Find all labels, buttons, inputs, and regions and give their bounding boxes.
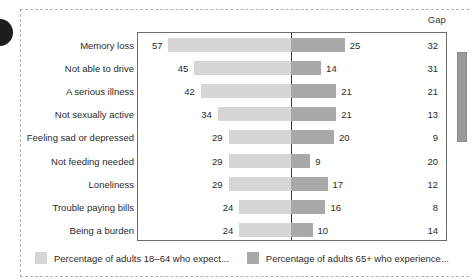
- bar-segment-65-plus[interactable]: [291, 107, 336, 121]
- row-bars: 572532: [138, 38, 446, 52]
- vertical-scrollbar-track[interactable]: [456, 22, 472, 257]
- bar-segment-18-64[interactable]: [229, 154, 291, 168]
- bar-segment-18-64[interactable]: [201, 84, 291, 98]
- bar-segment-65-plus[interactable]: [291, 84, 336, 98]
- row-category-label: Feeling sad or depressed: [27, 132, 134, 143]
- bar-segment-18-64[interactable]: [239, 200, 291, 214]
- bar-value-18-64: 29: [212, 178, 223, 189]
- row-bars: 342113: [138, 107, 446, 121]
- legend-label-65-plus: Percentage of adults 65+ who experience.…: [266, 253, 449, 264]
- bar-value-18-64: 34: [201, 109, 212, 120]
- bar-value-18-64: 45: [178, 62, 189, 73]
- bar-segment-18-64[interactable]: [218, 107, 291, 121]
- row-bars: 422121: [138, 84, 446, 98]
- row-category-label: Loneliness: [89, 178, 134, 189]
- gap-value: 21: [427, 85, 438, 96]
- bar-value-65-plus: 10: [318, 225, 329, 236]
- bar-value-18-64: 29: [212, 155, 223, 166]
- gap-value: 20: [427, 155, 438, 166]
- bar-segment-65-plus[interactable]: [291, 61, 321, 75]
- row-category-label: Being a burden: [70, 225, 134, 236]
- bar-segment-65-plus[interactable]: [291, 223, 313, 237]
- bar-value-18-64: 42: [184, 85, 195, 96]
- bar-value-65-plus: 21: [341, 85, 352, 96]
- chart-row: A serious illness422121: [138, 79, 446, 102]
- row-category-label: Trouble paying bills: [53, 201, 135, 212]
- gap-value: 32: [427, 39, 438, 50]
- row-category-label: Not sexually active: [55, 109, 134, 120]
- bar-segment-65-plus[interactable]: [291, 177, 328, 191]
- bar-value-18-64: 24: [223, 225, 234, 236]
- vertical-scrollbar-thumb[interactable]: [457, 52, 467, 142]
- bar-segment-18-64[interactable]: [194, 61, 291, 75]
- bar-value-65-plus: 14: [326, 62, 337, 73]
- bar-value-65-plus: 17: [333, 178, 344, 189]
- bar-segment-65-plus[interactable]: [291, 154, 310, 168]
- gap-value: 14: [427, 225, 438, 236]
- chart-row: Not able to drive451431: [138, 56, 446, 79]
- bar-segment-18-64[interactable]: [239, 223, 291, 237]
- row-bars: 451431: [138, 61, 446, 75]
- bar-segment-18-64[interactable]: [229, 177, 291, 191]
- chart-row: Not feeding needed29920: [138, 149, 446, 172]
- chart-row: Loneliness291712: [138, 172, 446, 195]
- bar-segment-65-plus[interactable]: [291, 38, 345, 52]
- bar-segment-18-64[interactable]: [168, 38, 291, 52]
- gap-value: 8: [433, 201, 438, 212]
- chart-legend: Percentage of adults 18–64 who expect...…: [35, 252, 467, 264]
- row-bars: 291712: [138, 177, 446, 191]
- legend-item-65-plus[interactable]: Percentage of adults 65+ who experience.…: [247, 252, 449, 264]
- gap-value: 13: [427, 109, 438, 120]
- row-bars: 241014: [138, 223, 446, 237]
- legend-label-18-64: Percentage of adults 18–64 who expect...: [54, 253, 229, 264]
- bar-segment-65-plus[interactable]: [291, 130, 334, 144]
- bar-value-65-plus: 25: [350, 39, 361, 50]
- row-category-label: Not feeding needed: [51, 155, 134, 166]
- bar-value-65-plus: 20: [339, 132, 350, 143]
- bar-value-18-64: 57: [152, 39, 163, 50]
- legend-swatch-icon-65-plus: [247, 252, 259, 264]
- row-category-label: Memory loss: [80, 39, 134, 50]
- chart-row: Memory loss572532: [138, 33, 446, 56]
- bar-segment-65-plus[interactable]: [291, 200, 325, 214]
- row-category-label: Not able to drive: [65, 62, 134, 73]
- gap-value: 9: [433, 132, 438, 143]
- legend-item-18-64[interactable]: Percentage of adults 18–64 who expect...: [35, 252, 229, 264]
- bar-value-18-64: 29: [212, 132, 223, 143]
- row-bars: 29209: [138, 130, 446, 144]
- row-category-label: A serious illness: [66, 85, 134, 96]
- row-bars: 24168: [138, 200, 446, 214]
- bar-value-18-64: 24: [223, 201, 234, 212]
- chart-plot-area: Memory loss572532Not able to drive451431…: [137, 32, 447, 241]
- chart-rows: Memory loss572532Not able to drive451431…: [138, 33, 446, 240]
- legend-swatch-icon-18-64: [35, 252, 47, 264]
- gap-value: 31: [427, 62, 438, 73]
- bar-value-65-plus: 9: [315, 155, 320, 166]
- gap-column-header: Gap: [428, 14, 446, 25]
- chart-row: Being a burden241014: [138, 219, 446, 242]
- chart-row: Feeling sad or depressed29209: [138, 126, 446, 149]
- bar-value-65-plus: 21: [341, 109, 352, 120]
- diverging-bar-chart: Gap Memory loss572532Not able to drive45…: [0, 0, 472, 279]
- chart-row: Trouble paying bills24168: [138, 195, 446, 218]
- gap-value: 12: [427, 178, 438, 189]
- bar-value-65-plus: 16: [330, 201, 341, 212]
- bar-segment-18-64[interactable]: [229, 130, 291, 144]
- row-bars: 29920: [138, 154, 446, 168]
- chart-row: Not sexually active342113: [138, 103, 446, 126]
